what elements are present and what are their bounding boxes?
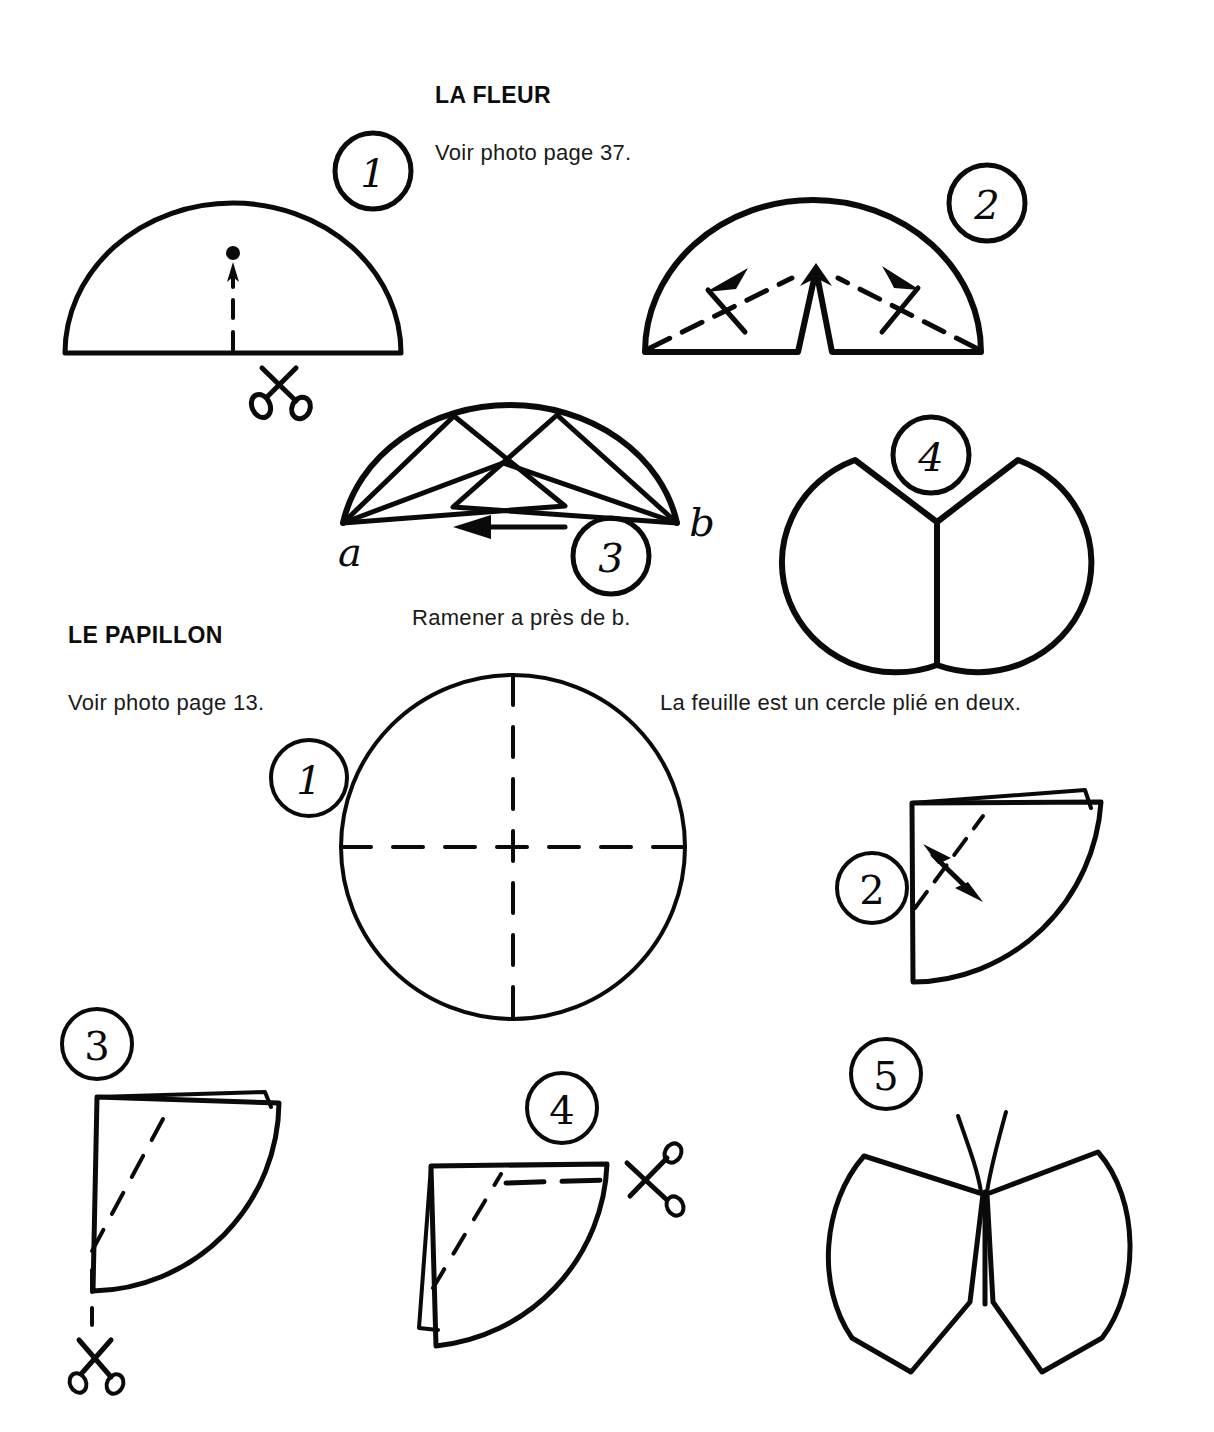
section-title-le-papillon: LE PAPILLON bbox=[68, 622, 223, 649]
papillon-step-2-badge: 2 bbox=[832, 848, 912, 928]
instruction-le-papillon: La feuille est un cercle plié en deux. bbox=[660, 690, 1021, 716]
fleur-step-1-badge: 1 bbox=[330, 128, 416, 214]
step-number: 3 bbox=[598, 535, 623, 581]
papillon-step-1-figure bbox=[338, 672, 698, 1022]
papillon-step4-quarter bbox=[431, 1164, 607, 1346]
fleur-step2-right-fold-arrow bbox=[838, 266, 976, 348]
papillon-step2-quarter bbox=[912, 802, 1101, 982]
instruction-sheet-page: LA FLEUR Voir photo page 37. 1 bbox=[0, 0, 1214, 1432]
point-label: a bbox=[338, 529, 362, 575]
step-number: 4 bbox=[917, 434, 943, 480]
papillon-right-wing bbox=[987, 1152, 1130, 1372]
papillon-left-wing bbox=[828, 1156, 983, 1372]
papillon-step-4-figure bbox=[405, 1150, 715, 1400]
section-title-la-fleur: LA FLEUR bbox=[435, 82, 551, 109]
step-number: 2 bbox=[859, 867, 884, 913]
step-number: 4 bbox=[549, 1087, 574, 1133]
papillon-step4-cut-line bbox=[506, 1180, 605, 1183]
step-number: 3 bbox=[84, 1023, 109, 1069]
photo-reference-la-fleur: Voir photo page 37. bbox=[435, 140, 632, 166]
papillon-step-2-figure bbox=[905, 780, 1120, 1015]
papillon-step-3-figure bbox=[75, 1085, 325, 1405]
step-number: 1 bbox=[296, 757, 321, 803]
papillon-step-5-figure bbox=[810, 1080, 1140, 1400]
fleur-step-2-badge: 2 bbox=[944, 160, 1030, 246]
step-number: 1 bbox=[360, 150, 385, 196]
papillon-left-antenna bbox=[958, 1116, 981, 1192]
scissors-icon bbox=[627, 1140, 687, 1218]
papillon-step-3-badge: 3 bbox=[57, 1004, 137, 1084]
fleur-step2-left-fold-arrow bbox=[650, 268, 792, 348]
instruction-la-fleur: Ramener a près de b. bbox=[412, 605, 631, 631]
papillon-step4-crease bbox=[433, 1174, 501, 1288]
arrow-icon bbox=[453, 515, 565, 539]
step-number: 2 bbox=[973, 182, 999, 228]
fleur-step-4-badge: 4 bbox=[888, 412, 974, 498]
papillon-right-antenna bbox=[987, 1112, 1006, 1192]
papillon-step3-crease bbox=[92, 1119, 163, 1251]
scissors-icon bbox=[67, 1340, 127, 1396]
fleur-step-3-badge: 3 bbox=[568, 513, 654, 599]
scissors-icon bbox=[248, 368, 314, 422]
papillon-step2-fold-arrow bbox=[915, 816, 983, 908]
photo-reference-le-papillon: Voir photo page 13. bbox=[68, 690, 265, 716]
fleur-step1-point-dot bbox=[226, 246, 240, 260]
point-label: b bbox=[689, 499, 715, 545]
papillon-step-4-badge: 4 bbox=[522, 1068, 602, 1148]
fleur-point-b: b bbox=[672, 490, 732, 550]
fleur-point-a: a bbox=[320, 520, 380, 580]
